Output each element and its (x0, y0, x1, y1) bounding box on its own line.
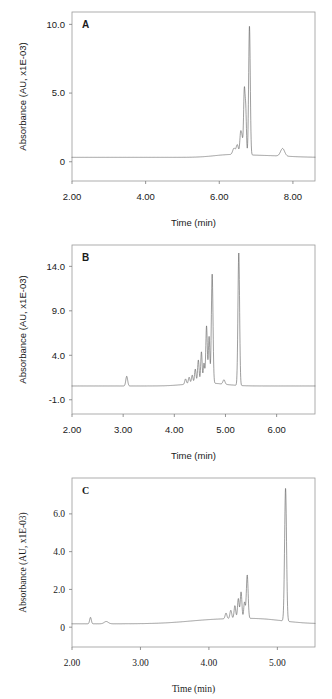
y-tick-label: 6.0 (53, 509, 65, 519)
x-tick-label: 2.00 (63, 191, 82, 202)
y-axis-title: Absorbance (AU, x1E-03) (18, 512, 29, 613)
panel-letter: A (82, 19, 89, 30)
chromatogram-trace (72, 26, 315, 157)
plot-frame (72, 12, 315, 181)
chromatogram-panel-a: 2.004.006.008.0005.010.0ATime (min)Absor… (0, 0, 332, 233)
y-tick-label: 14.0 (47, 261, 66, 272)
y-tick-label: 4.0 (52, 350, 65, 361)
y-tick-label: 0 (60, 623, 65, 633)
y-tick-label: -1.0 (49, 394, 65, 405)
x-tick-label: 2.00 (64, 658, 81, 668)
chromatogram-panel-b: 2.003.004.005.006.00-1.04.09.014.0BTime … (0, 233, 332, 466)
y-tick-label: 0 (60, 156, 65, 167)
x-tick-label: 5.00 (269, 658, 286, 668)
x-tick-label: 3.00 (132, 658, 149, 668)
x-tick-label: 5.00 (216, 424, 235, 435)
chromatogram-trace (72, 488, 315, 623)
chromatogram-trace (72, 253, 315, 386)
y-tick-label: 5.0 (52, 87, 65, 98)
y-tick-label: 2.0 (53, 585, 65, 595)
x-tick-label: 6.00 (210, 191, 229, 202)
x-axis-title: Time (min) (171, 217, 216, 228)
x-tick-label: 8.00 (284, 191, 303, 202)
x-tick-label: 4.00 (136, 191, 155, 202)
y-tick-label: 9.0 (52, 305, 65, 316)
chromatogram-panel-c: 2.003.004.005.0002.04.06.0CTime (min)Abs… (0, 466, 332, 699)
x-tick-label: 4.00 (165, 424, 184, 435)
plot-frame (72, 478, 315, 647)
x-axis-title: Time (min) (171, 450, 216, 461)
panel-letter: B (82, 252, 89, 263)
x-tick-label: 3.00 (114, 424, 133, 435)
y-axis-title: Absorbance (AU, x1E-03) (17, 42, 28, 150)
chromatogram-figure: 2.004.006.008.0005.010.0ATime (min)Absor… (0, 0, 332, 699)
panel-letter: C (82, 485, 89, 496)
y-tick-label: 10.0 (47, 19, 66, 30)
x-axis-title: Time (min) (172, 684, 215, 695)
y-tick-label: 4.0 (53, 547, 65, 557)
x-tick-label: 2.00 (63, 424, 82, 435)
y-axis-title: Absorbance (AU, x1E-03) (17, 275, 28, 383)
x-tick-label: 6.00 (267, 424, 286, 435)
plot-frame (72, 245, 315, 414)
x-tick-label: 4.00 (201, 658, 218, 668)
